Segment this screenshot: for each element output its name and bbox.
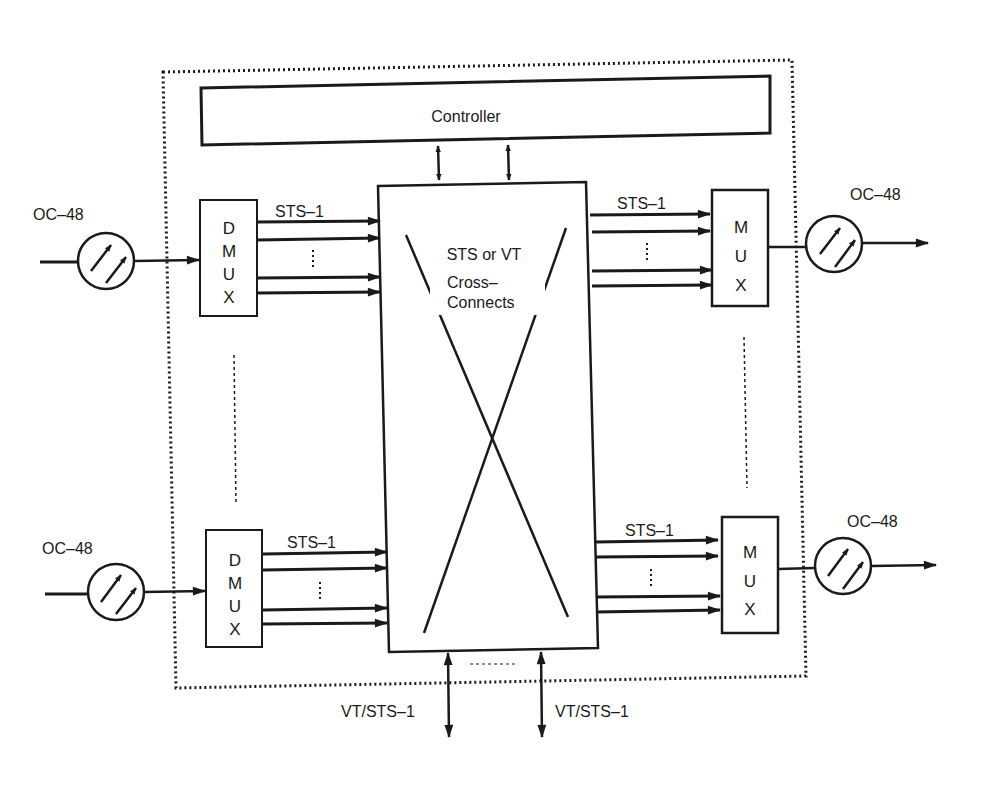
control-link-2 (508, 145, 509, 180)
system-boundary (163, 60, 806, 688)
mux-letter: X (735, 276, 746, 295)
demux-letter: M (222, 242, 236, 261)
controller-label: Controller (431, 108, 501, 125)
vt-sts1-label: VT/STS–1 (555, 703, 629, 720)
input-continuation-dots (234, 355, 236, 505)
cross-connect-label-3: Connects (447, 294, 515, 311)
sts1-tributaries (596, 540, 720, 612)
mux-letter: M (743, 543, 757, 562)
cross-connect-matrix: STS or VT Cross– Connects (378, 182, 598, 652)
mux-letter: X (744, 600, 755, 619)
mux-letter: U (744, 572, 756, 591)
oc48-input-label: OC–48 (33, 206, 84, 223)
sts1-label: STS–1 (617, 195, 666, 212)
output-port-1: STS–1 M U X OC–48 (590, 186, 928, 306)
sts1-label: STS–1 (625, 522, 674, 539)
optical-transmitter-icon (815, 538, 871, 594)
demux-letter: X (223, 288, 234, 307)
controller-block: Controller (201, 76, 770, 145)
sts1-tributaries (590, 214, 712, 286)
demux-block: D M U X (200, 200, 257, 316)
cross-connect-label-2: Cross– (447, 274, 498, 291)
mux-block: M U X (712, 190, 768, 306)
cross-connect-diagram: Controller STS or VT Cross– Connects OC–… (0, 0, 985, 786)
demux-block: D M U X (206, 530, 262, 647)
optical-transmitter-icon (806, 216, 862, 272)
sts1-tributaries (263, 552, 387, 624)
cross-connect-label-1: STS or VT (447, 246, 522, 263)
drop-port-1: VT/STS–1 (341, 653, 449, 737)
optical-receiver-icon (78, 233, 134, 289)
sts1-tributaries (257, 221, 380, 293)
control-link-1 (438, 146, 439, 180)
sts1-label: STS–1 (275, 203, 324, 220)
demux-letter: D (229, 551, 241, 570)
optical-receiver-icon (88, 564, 144, 620)
demux-letter: M (228, 574, 242, 593)
demux-letter: U (229, 597, 241, 616)
input-port-1: OC–48 D M U X STS–1 (33, 200, 380, 316)
vt-sts1-label: VT/STS–1 (341, 703, 415, 720)
input-port-2: OC–48 D M U X STS–1 (42, 530, 387, 647)
output-port-2: STS–1 M U X OC–48 (596, 513, 936, 633)
demux-letter: U (223, 265, 235, 284)
oc48-output-label: OC–48 (850, 186, 901, 203)
oc48-input-label: OC–48 (42, 540, 93, 557)
demux-letter: D (223, 219, 235, 238)
mux-letter: U (735, 247, 747, 266)
output-continuation-dots (744, 337, 747, 488)
sts1-label: STS–1 (287, 534, 336, 551)
mux-letter: M (734, 218, 748, 237)
demux-letter: X (229, 620, 240, 639)
drop-port-2: VT/STS–1 (541, 652, 629, 737)
mux-block: M U X (722, 517, 778, 633)
oc48-output-label: OC–48 (847, 513, 898, 530)
